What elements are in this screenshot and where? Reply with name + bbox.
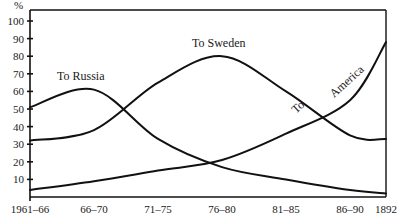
label-to-sweden: To Sweden <box>192 36 245 50</box>
y-tick-label: 60 <box>13 85 25 97</box>
x-tick-label: 66–70 <box>80 203 108 215</box>
x-tick-label: 1961–66 <box>11 203 50 215</box>
series-lines <box>30 42 386 193</box>
y-tick-label: 40 <box>13 121 25 133</box>
series-line-russia <box>30 89 386 194</box>
series-line-america <box>30 42 386 190</box>
x-axis-ticks: 1961–6666–7071–7576–8081–8586–901892 <box>11 203 397 215</box>
series-annotations: To RussiaTo SwedenToAmerica <box>57 36 367 116</box>
label-to-america: America <box>327 62 368 100</box>
y-axis-unit-label: % <box>14 0 23 11</box>
x-tick-label: 81–85 <box>272 203 300 215</box>
y-tick-label: 80 <box>13 50 25 62</box>
x-tick-label: 76–80 <box>208 203 236 215</box>
x-tick-label: 1892 <box>375 203 397 215</box>
label-to-america-prefix: To <box>289 97 308 116</box>
y-tick-label: 10 <box>13 173 25 185</box>
y-tick-label: 20 <box>13 156 25 168</box>
y-axis-ticks: 102030405060708090100 <box>8 15 34 185</box>
y-tick-label: 70 <box>13 68 25 80</box>
y-tick-label: 100 <box>8 15 25 27</box>
y-tick-label: 90 <box>13 33 25 45</box>
y-tick-label: 30 <box>13 138 25 150</box>
label-to-russia: To Russia <box>57 69 105 83</box>
y-tick-label: 50 <box>13 103 25 115</box>
x-tick-label: 86–90 <box>336 203 364 215</box>
x-tick-label: 71–75 <box>144 203 172 215</box>
emigration-line-chart: % 102030405060708090100 1961–6666–7071–7… <box>0 0 405 216</box>
